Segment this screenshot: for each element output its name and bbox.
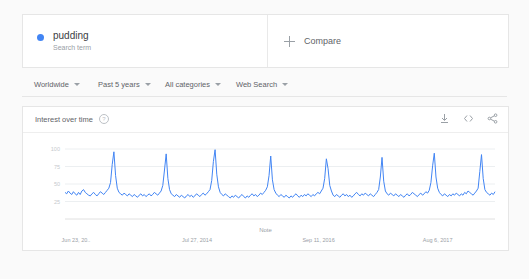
filter-search-type-label: Web Search	[236, 80, 277, 89]
filter-location-label: Worldwide	[34, 80, 69, 89]
search-term-text: pudding Search term	[53, 30, 91, 52]
x-axis-labels: Jun 23, 20..Jul 27, 2014Sep 11, 2016Aug …	[23, 237, 508, 247]
search-term-subtitle: Search term	[53, 44, 91, 52]
interest-over-time-card: Interest over time ?	[22, 106, 509, 251]
chart-note-annotation: Note	[23, 227, 508, 233]
filter-category-label: All categories	[165, 80, 210, 89]
y-axis-tick-label: 75	[54, 164, 60, 170]
compare-label: Compare	[304, 36, 341, 46]
y-axis-tick-label: 50	[54, 181, 60, 187]
filter-category[interactable]: All categories	[165, 80, 221, 89]
filter-time-range-label: Past 5 years	[98, 80, 140, 89]
x-axis-tick-label: Sep 11, 2016	[302, 237, 334, 243]
search-term-entry[interactable]: pudding Search term	[23, 15, 268, 67]
chart-actions	[439, 113, 498, 124]
filter-time-range[interactable]: Past 5 years	[98, 80, 151, 89]
chevron-down-icon	[145, 83, 151, 86]
x-axis-tick-label: Aug 6, 2017	[423, 237, 453, 243]
trends-page: pudding Search term Compare Worldwide Pa…	[0, 0, 529, 279]
y-axis-tick-label: 100	[51, 146, 60, 152]
compare-button[interactable]: Compare	[268, 15, 508, 67]
download-icon[interactable]	[439, 113, 450, 124]
chevron-down-icon	[282, 83, 288, 86]
info-icon[interactable]: ?	[99, 114, 109, 124]
series-line	[65, 150, 495, 198]
chevron-down-icon	[74, 83, 80, 86]
y-axis-tick-label: 25	[54, 199, 60, 205]
series-color-dot	[37, 34, 44, 41]
search-term-card: pudding Search term Compare	[22, 14, 509, 68]
filter-bar: Worldwide Past 5 years All categories We…	[22, 72, 507, 97]
filter-search-type[interactable]: Web Search	[236, 80, 288, 89]
chart-title: Interest over time	[35, 115, 93, 124]
share-icon[interactable]	[487, 113, 498, 124]
plus-icon	[284, 36, 295, 47]
search-term-title: pudding	[53, 30, 91, 42]
chevron-down-icon	[215, 83, 221, 86]
chart-plot-area: 100755025 Note Jun 23, 20..Jul 27, 2014S…	[23, 133, 508, 250]
chart-header: Interest over time ?	[23, 107, 508, 133]
embed-code-icon[interactable]	[463, 113, 474, 124]
x-axis-tick-label: Jun 23, 20..	[62, 237, 91, 243]
filter-location[interactable]: Worldwide	[34, 80, 80, 89]
x-axis-tick-label: Jul 27, 2014	[182, 237, 212, 243]
